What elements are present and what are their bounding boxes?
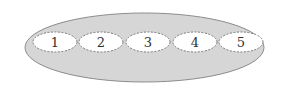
item-label: 4	[191, 35, 199, 50]
item-ellipse-3: 3	[126, 32, 170, 52]
item-ellipse-4: 4	[173, 32, 217, 52]
item-ellipse-1: 1	[33, 32, 77, 52]
item-label: 1	[51, 35, 59, 50]
item-ellipse-2: 2	[79, 32, 123, 52]
set-diagram: 1 2 3 4 5	[0, 0, 284, 86]
item-ellipse-5: 5	[219, 32, 263, 52]
item-label: 3	[144, 35, 152, 50]
item-group: 1 2 3 4 5	[33, 32, 263, 52]
item-label: 5	[237, 35, 245, 50]
diagram-canvas: 1 2 3 4 5	[0, 0, 284, 86]
item-label: 2	[97, 35, 105, 50]
